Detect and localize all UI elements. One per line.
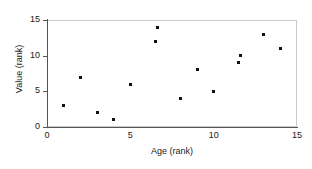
data-point xyxy=(79,76,82,79)
data-point xyxy=(154,40,157,43)
y-tick-mark xyxy=(43,20,47,21)
x-tick-label: 0 xyxy=(32,130,62,140)
data-point xyxy=(237,61,240,64)
x-tick-label: 5 xyxy=(115,130,145,140)
data-point xyxy=(96,111,99,114)
y-axis-label: Value (rank) xyxy=(14,14,24,124)
data-point xyxy=(212,90,215,93)
data-point xyxy=(156,26,159,29)
data-point xyxy=(239,54,242,57)
x-tick-label: 10 xyxy=(199,130,229,140)
data-point xyxy=(129,83,132,86)
data-point xyxy=(196,68,199,71)
x-axis-spine xyxy=(46,127,298,128)
y-tick-mark xyxy=(43,56,47,57)
y-tick-mark xyxy=(43,127,47,128)
data-point xyxy=(179,97,182,100)
data-point xyxy=(262,33,265,36)
y-tick-mark xyxy=(43,91,47,92)
y-axis-spine xyxy=(47,19,48,128)
scatter-plot-figure: 051015 051015 Age (rank) Value (rank) xyxy=(0,0,312,169)
plot-area xyxy=(47,20,297,127)
data-point xyxy=(279,47,282,50)
data-point xyxy=(62,104,65,107)
data-point xyxy=(112,118,115,121)
x-axis-label: Age (rank) xyxy=(47,146,297,156)
x-tick-label: 15 xyxy=(282,130,312,140)
